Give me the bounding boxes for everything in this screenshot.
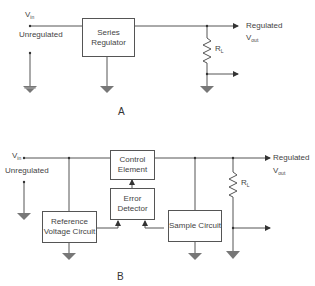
vout-label-b: Vout xyxy=(273,166,285,178)
unregulated-label-a: Unregulated xyxy=(19,30,63,40)
rl-label-a: RL xyxy=(215,44,224,56)
series-regulator-block: Series Regulator xyxy=(82,18,135,57)
caption-a: A xyxy=(118,106,125,117)
reference-voltage-block: Reference Voltage Circuit xyxy=(42,211,97,243)
vin-label-a: Vin xyxy=(25,10,34,22)
caption-b: B xyxy=(117,271,124,282)
regulated-label-a: Regulated xyxy=(246,21,282,31)
rl-label-b: RL xyxy=(241,178,250,190)
circuit-wires xyxy=(0,0,315,286)
regulated-label-b: Regulated xyxy=(273,153,309,163)
error-detector-block: Error Detector xyxy=(110,188,155,220)
control-element-block: Control Element xyxy=(110,150,155,180)
sample-circuit-block: Sample Circuit xyxy=(168,210,222,242)
vout-label-a: Vout xyxy=(246,33,258,45)
unregulated-label-b: Unregulated xyxy=(5,166,49,176)
vin-label-b: Vin xyxy=(12,151,21,163)
